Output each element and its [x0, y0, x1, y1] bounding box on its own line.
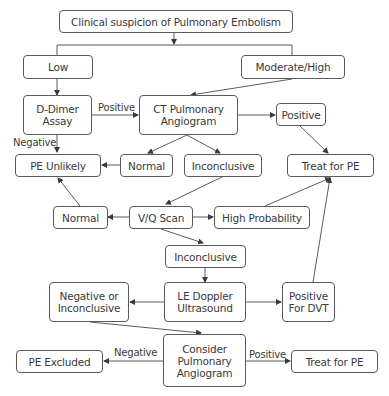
node-treat-for-pe-2: Treat for PE [291, 350, 378, 373]
node-positive-for-dvt: Positive For DVT [282, 282, 335, 322]
node-pe-excluded: PE Excluded [16, 350, 103, 373]
edge-label-ddimer-positive: Positive [98, 102, 135, 113]
node-clinical-suspicion: Clinical suspicion of Pulmonary Embolism [59, 10, 293, 33]
edge-label-consider-negative: Negative [114, 347, 157, 358]
node-ct-positive: Positive [276, 103, 326, 126]
node-moderate-high: Moderate/High [241, 55, 345, 79]
node-ct-normal: Normal [120, 154, 173, 177]
node-high-probability: High Probability [214, 206, 310, 229]
node-treat-for-pe-1: Treat for PE [287, 154, 374, 177]
node-pe-unlikely: PE Unlikely [15, 154, 101, 177]
node-low: Low [23, 55, 93, 79]
node-d-dimer-assay: D-Dimer Assay [23, 95, 92, 135]
node-consider-pulmonary-angiogram: Consider Pulmonary Angiogram [163, 334, 246, 387]
node-vq-inconclusive: Inconclusive [165, 245, 246, 268]
edge-label-consider-positive: Positive [249, 349, 286, 360]
node-vq-scan: V/Q Scan [129, 206, 193, 229]
node-le-doppler-ultrasound: LE Doppler Ultrasound [164, 282, 246, 322]
node-vq-normal: Normal [53, 206, 108, 229]
node-negative-or-inconclusive: Negative or Inconclusive [49, 282, 129, 322]
node-ct-pulmonary-angiogram: CT Pulmonary Angiogram [139, 95, 238, 135]
node-ct-inconclusive: Inconclusive [184, 154, 262, 177]
edge-label-ddimer-negative: Negative [13, 137, 56, 148]
